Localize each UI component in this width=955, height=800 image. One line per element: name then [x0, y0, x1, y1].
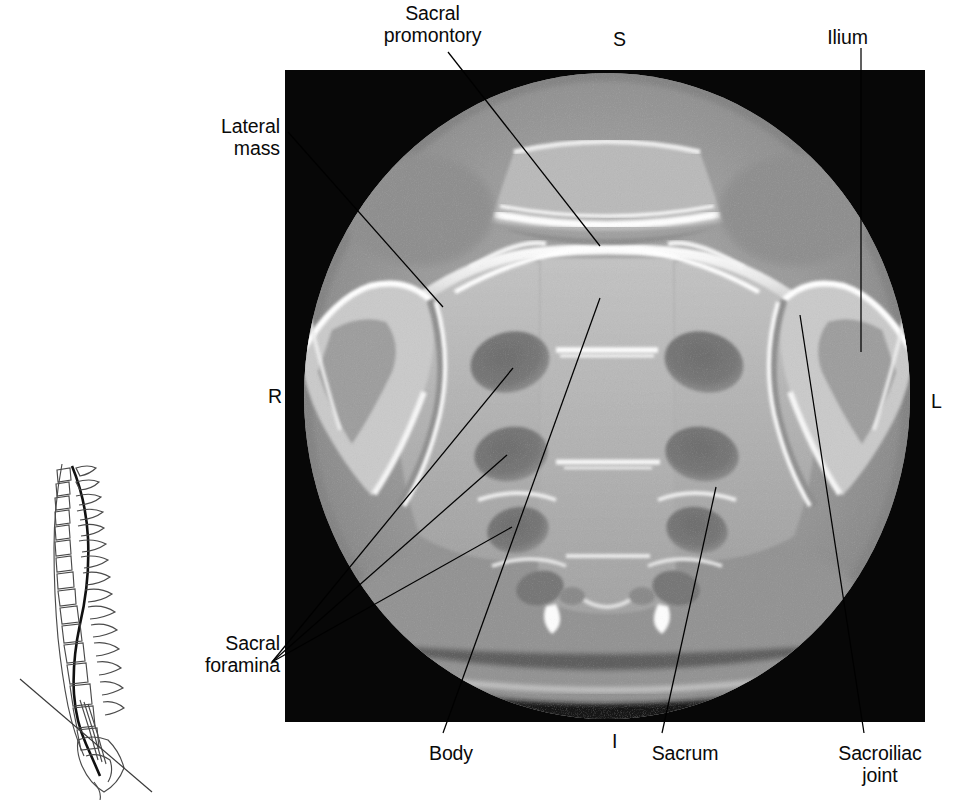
- orientation-marker-left: L: [931, 390, 942, 413]
- label-sacrum: Sacrum: [620, 742, 750, 764]
- label-line: Sacral: [345, 2, 520, 24]
- label-line: Lateral: [105, 115, 280, 137]
- label-ilium: Ilium: [790, 26, 905, 48]
- label-body: Body: [396, 742, 506, 764]
- label-line: Sacrum: [620, 742, 750, 764]
- ct-figure: SacralpromontoryLateralmassIliumSacralfo…: [0, 0, 955, 800]
- orientation-marker-superior: S: [613, 28, 626, 51]
- label-line: Ilium: [790, 26, 905, 48]
- label-line: promontory: [345, 24, 520, 46]
- orientation-marker-inferior: I: [612, 730, 617, 753]
- label-sacroiliac-joint: Sacroiliacjoint: [805, 742, 955, 786]
- label-line: mass: [105, 137, 280, 159]
- label-line: Body: [396, 742, 506, 764]
- scan-plane-line: [20, 679, 152, 792]
- label-line: joint: [805, 764, 955, 786]
- ct-panel: [285, 70, 925, 724]
- label-line: foramina: [30, 654, 280, 676]
- orientation-marker-right: R: [268, 385, 282, 408]
- label-lateral-mass: Lateralmass: [105, 115, 280, 159]
- label-line: Sacroiliac: [805, 742, 955, 764]
- label-sacral-foramina: Sacralforamina: [30, 632, 280, 676]
- label-sacral-promontory: Sacralpromontory: [345, 2, 520, 46]
- label-line: Sacral: [30, 632, 280, 654]
